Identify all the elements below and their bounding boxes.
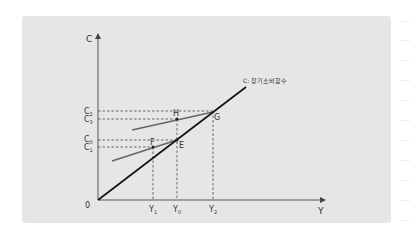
short-run-line-lower <box>112 140 177 161</box>
tick-y0: Y0 <box>172 205 181 215</box>
origin-label: 0 <box>85 201 90 210</box>
x-axis-label: Y <box>317 206 324 216</box>
point-h-label: H <box>173 109 179 118</box>
point-g-label: G <box>214 113 220 122</box>
y-axis-label: C <box>86 34 92 44</box>
tick-y2: Y2 <box>208 205 217 215</box>
curve-label: C: 장기소비함수 <box>243 77 287 85</box>
consumption-diagram: C Y 0 C: 장기소비함수 C2 C3 C0 C1 Y1 Y0 Y2 H G… <box>0 0 410 235</box>
point-f-label: F <box>150 138 155 147</box>
long-run-consumption-line <box>98 87 246 200</box>
tick-y1: Y1 <box>148 205 157 215</box>
point-e-label: E <box>179 141 184 150</box>
